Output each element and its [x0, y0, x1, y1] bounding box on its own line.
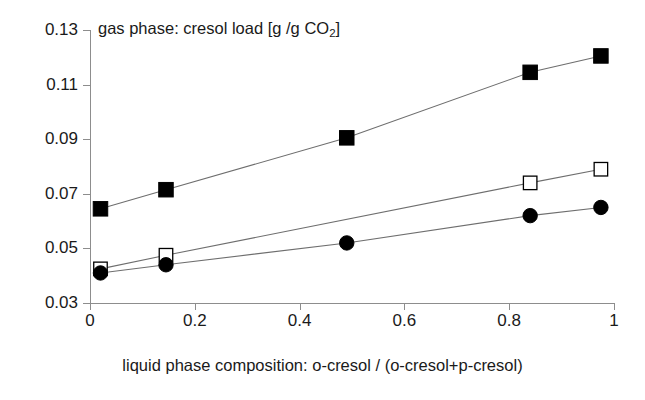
data-point-open-square — [523, 176, 537, 190]
series-filled-square-series — [93, 49, 608, 216]
data-point-filled-square — [523, 65, 538, 80]
data-point-filled-square — [340, 131, 355, 146]
data-point-filled-circle — [340, 236, 354, 250]
data-point-open-square — [594, 162, 608, 176]
data-point-filled-circle — [523, 208, 537, 222]
data-point-filled-circle — [594, 200, 608, 214]
data-point-filled-circle — [93, 266, 107, 280]
series-plot-area — [0, 0, 645, 400]
data-point-filled-square — [93, 202, 108, 217]
data-point-filled-square — [594, 49, 609, 64]
data-point-filled-square — [159, 182, 174, 197]
data-point-filled-circle — [159, 258, 173, 272]
series-filled-circle-series — [93, 200, 608, 280]
chart-figure: 0.030.050.070.090.110.13 00.20.40.60.81 … — [0, 0, 645, 400]
